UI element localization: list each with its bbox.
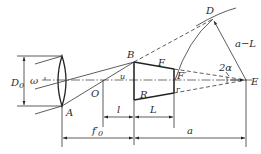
label-r-upper: R <box>139 89 148 100</box>
label-a-length: a <box>187 125 193 136</box>
ray-a-to-b <box>62 62 134 106</box>
label-omega: ω <box>30 75 38 86</box>
label-a-minus-l: a−L <box>235 38 256 49</box>
dashed-r-to-e <box>174 80 246 93</box>
label-f: F <box>157 57 166 68</box>
arc-d <box>196 8 236 26</box>
ray-bottom-in <box>35 106 62 114</box>
label-L: L <box>149 104 157 115</box>
label-a-point: A <box>65 107 73 118</box>
label-e: E <box>250 76 259 87</box>
label-f0-prime: f′0 <box>91 125 103 138</box>
label-b: B <box>126 49 134 60</box>
optical-diagram: D0 ω A O u B R F F′ r D a−L 2α E l L f′0… <box>0 0 261 154</box>
label-f-prime: F′ <box>176 70 187 81</box>
label-r-lower: r <box>176 85 181 94</box>
label-two-alpha: 2α <box>218 62 232 73</box>
label-o: O <box>91 88 99 99</box>
edge-bf <box>134 62 174 69</box>
ray-top-in <box>35 56 62 64</box>
label-d-point: D <box>205 5 214 16</box>
label-l: l <box>117 104 120 115</box>
label-u: u <box>120 72 125 81</box>
dashed-b-to-d <box>134 19 213 62</box>
label-d0: D0 <box>10 77 24 90</box>
